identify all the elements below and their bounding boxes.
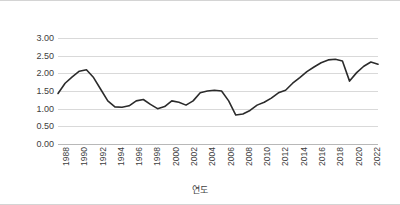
x-axis-tick-label: 1988 xyxy=(62,147,71,166)
y-axis-tick-label: 2.00 xyxy=(2,69,54,78)
x-axis-tick-label: 2008 xyxy=(245,147,254,166)
y-axis-tick-label: 3.00 xyxy=(2,34,54,43)
x-axis-tick-label: 2022 xyxy=(373,147,382,166)
x-axis-tick-label: 2010 xyxy=(263,147,272,166)
y-axis-tick-label: 2.50 xyxy=(2,52,54,61)
x-axis-tick-label: 2002 xyxy=(190,147,199,166)
x-axis-tick-label: 2018 xyxy=(336,147,345,166)
y-axis-tick-label: 0.50 xyxy=(2,122,54,131)
y-axis-tick-label: 1.00 xyxy=(2,105,54,114)
x-axis-line xyxy=(58,144,378,145)
x-axis-tick-label: 1994 xyxy=(117,147,126,166)
data-line xyxy=(58,59,378,115)
x-axis-tick-label: 1996 xyxy=(135,147,144,166)
x-axis-tick-label: 2000 xyxy=(172,147,181,166)
chart-container: 3.002.502.001.501.000.500.00 19881990199… xyxy=(0,0,400,205)
line-series xyxy=(58,38,378,144)
y-axis-tick-label: 1.50 xyxy=(2,87,54,96)
x-axis-tick-label: 2004 xyxy=(208,147,217,166)
y-axis-tick-label: 0.00 xyxy=(2,140,54,149)
plot-area xyxy=(58,38,378,144)
x-axis-title: 연도 xyxy=(0,183,400,196)
x-axis-tick-label: 2006 xyxy=(227,147,236,166)
x-axis-tick-label: 2020 xyxy=(355,147,364,166)
x-axis-tick-label: 2012 xyxy=(281,147,290,166)
x-axis-tick-label: 1990 xyxy=(80,147,89,166)
x-axis-tick-label: 1998 xyxy=(153,147,162,166)
x-axis: 1988199019921994199619982000200220042006… xyxy=(58,147,378,181)
x-axis-tick-label: 2016 xyxy=(318,147,327,166)
x-axis-tick-label: 2014 xyxy=(300,147,309,166)
y-axis: 3.002.502.001.501.000.500.00 xyxy=(0,38,54,144)
x-axis-tick-label: 1992 xyxy=(99,147,108,166)
